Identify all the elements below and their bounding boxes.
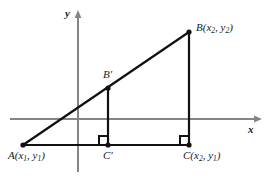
y-axis-label: y xyxy=(65,8,70,19)
point-label-A-ysub: 1 xyxy=(37,154,41,163)
point-dot-Bp xyxy=(105,85,110,90)
point-label-A: A(x1, y1) xyxy=(8,150,45,161)
point-label-C-ysub: 1 xyxy=(213,154,217,163)
point-label-C-prime: C' xyxy=(103,150,113,161)
point-dot-A xyxy=(20,142,25,147)
point-label-B-close: ) xyxy=(229,21,233,33)
point-label-C-xsub: 2 xyxy=(199,154,203,163)
geometry-figure: y x A(x1, y1) B(x2, y2) C(x2, y1) B' C' xyxy=(0,0,272,180)
point-dot-B xyxy=(186,29,191,34)
point-label-C-close: ) xyxy=(217,149,221,161)
point-label-A-close: ) xyxy=(41,149,45,161)
right-angle-marks-group xyxy=(99,136,189,145)
point-label-B: B(x2, y2) xyxy=(196,22,233,33)
point-label-A-name: A xyxy=(8,149,15,161)
point-dot-C xyxy=(186,142,191,147)
x-axis-arrowhead xyxy=(254,116,262,123)
point-label-B-xsub: 2 xyxy=(211,26,215,35)
point-label-B-name: B xyxy=(196,21,203,33)
point-label-A-xsub: 1 xyxy=(23,154,27,163)
x-axis-label: x xyxy=(248,124,254,135)
point-label-B-prime: B' xyxy=(103,69,112,80)
point-label-C: C(x2, y1) xyxy=(183,150,220,161)
point-label-B-ysub: 2 xyxy=(225,26,229,35)
point-dot-Cp xyxy=(105,142,110,147)
y-axis-arrowhead xyxy=(75,10,82,18)
